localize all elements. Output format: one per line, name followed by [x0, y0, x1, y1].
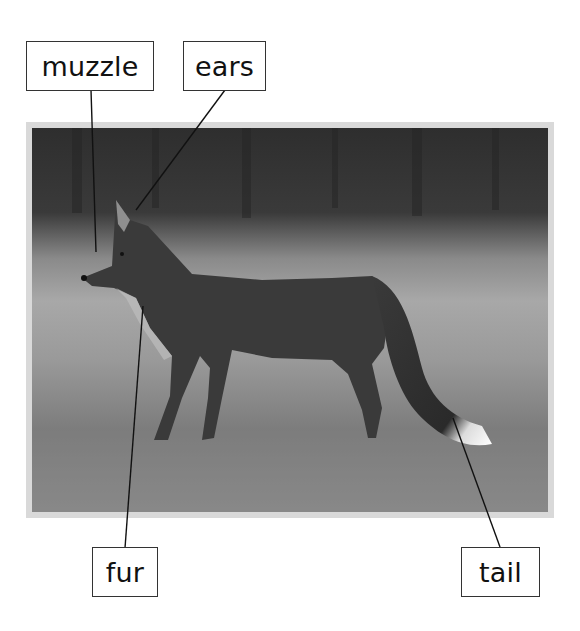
label-tail: tail: [461, 547, 540, 597]
label-ears: ears: [183, 41, 266, 91]
fox-illustration: [32, 128, 548, 512]
label-ears-text: ears: [195, 51, 254, 82]
label-muzzle: muzzle: [26, 41, 154, 91]
label-fur-text: fur: [106, 557, 144, 588]
label-muzzle-text: muzzle: [41, 51, 138, 82]
photo-frame: [26, 122, 554, 518]
fox-photo: [32, 128, 548, 512]
label-tail-text: tail: [479, 557, 522, 588]
label-fur: fur: [92, 547, 158, 597]
